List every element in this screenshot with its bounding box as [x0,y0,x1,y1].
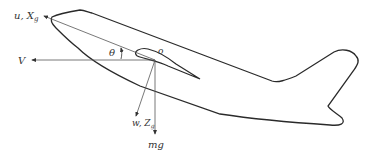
body-x-axis-arrow [44,16,155,60]
origin-label: o [158,46,164,56]
wing-outline [136,49,200,79]
fuselage-outline [51,10,358,125]
diagram-canvas: u, Xg V θ o w, Zg mg [0,0,377,159]
weight-label: mg [148,139,164,150]
body-z-axis-label: w, Zg [132,118,155,130]
aircraft-diagram: u, Xg V θ o w, Zg mg [0,0,377,159]
body-x-axis-label: u, Xg [14,10,39,23]
body-z-axis-arrow [136,60,155,116]
velocity-label: V [18,55,27,66]
pitch-angle-label: θ [109,47,115,58]
pitch-angle-arc [121,48,122,59]
